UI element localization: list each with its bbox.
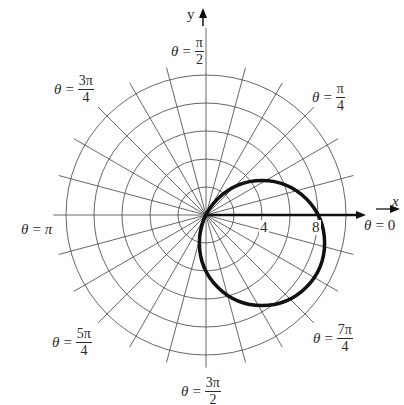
- fraction-numerator: 3π: [78, 74, 94, 90]
- x-axis-label: x: [392, 193, 399, 210]
- theta-symbol: θ: [171, 43, 178, 60]
- theta-symbol: θ: [313, 330, 320, 347]
- fraction-denominator: 2: [196, 52, 203, 67]
- polar-graph: y x 4 8 θ = π2 θ = 3π4 θ = π4 θ = π θ = …: [0, 0, 404, 405]
- angle-label-7pi-over-4: θ = 7π4: [313, 323, 353, 354]
- equals-sign: =: [63, 334, 71, 351]
- theta-symbol: θ: [54, 81, 61, 98]
- fraction-numerator: π: [195, 36, 204, 52]
- fraction-numerator: 7π: [337, 323, 353, 339]
- tick-label-8: 8: [311, 220, 321, 235]
- fraction-denominator: 4: [341, 339, 348, 354]
- angle-label-pi-over-2: θ = π2: [171, 36, 204, 67]
- equals-sign: =: [65, 81, 73, 98]
- theta-symbol: θ: [21, 221, 28, 238]
- theta-symbol: θ: [52, 334, 59, 351]
- equals-sign: =: [32, 221, 40, 238]
- angle-value: π: [45, 221, 53, 238]
- angle-label-3pi-over-2: θ = 3π2: [181, 376, 221, 405]
- angle-label-3pi-over-4: θ = 3π4: [54, 74, 94, 105]
- equals-sign: =: [192, 383, 200, 400]
- fraction-denominator: 4: [337, 98, 344, 113]
- tick-label-4: 4: [259, 220, 269, 235]
- fraction-denominator: 4: [80, 343, 87, 358]
- theta-symbol: θ: [181, 383, 188, 400]
- fraction-denominator: 2: [209, 392, 216, 405]
- angle-label-pi-over-4: θ = π4: [312, 82, 345, 113]
- fraction-numerator: 3π: [205, 376, 221, 392]
- angle-label-zero: θ = 0: [364, 217, 395, 234]
- angle-label-5pi-over-4: θ = 5π4: [52, 327, 92, 358]
- polar-curve: [199, 180, 324, 305]
- theta-symbol: θ: [312, 89, 319, 106]
- theta-symbol: θ: [364, 217, 371, 234]
- y-axis-label: y: [187, 6, 195, 23]
- fraction-numerator: 5π: [76, 327, 92, 343]
- angle-label-pi: θ = π: [21, 221, 52, 238]
- equals-sign: =: [375, 217, 383, 234]
- equals-sign: =: [182, 43, 190, 60]
- fraction-numerator: π: [336, 82, 345, 98]
- angle-value: 0: [388, 217, 396, 234]
- equals-sign: =: [324, 330, 332, 347]
- equals-sign: =: [323, 89, 331, 106]
- fraction-denominator: 4: [82, 90, 89, 105]
